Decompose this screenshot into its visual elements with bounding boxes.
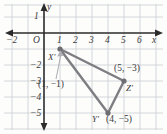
x-tick-label--2: −2 (6, 36, 17, 46)
x-tick-label-2: 2 (73, 36, 78, 46)
vertex-label-x-prime: X' (48, 53, 55, 62)
plot-svg (0, 0, 167, 134)
y-axis-name: y (47, 3, 51, 13)
vertex-label-z-prime: Z' (126, 84, 133, 93)
coord-label-z-prime: (5, −3) (114, 64, 140, 74)
x-tick-label-4: 4 (105, 36, 110, 46)
y-tick-label--2: −2 (30, 61, 41, 71)
y-tick-label-1: 1 (34, 12, 39, 22)
origin-label: O (33, 36, 40, 46)
x-tick-label-3: 3 (89, 36, 94, 46)
x-axis-name: x (152, 36, 156, 46)
coord-label-y-prime: (4, −5) (106, 115, 132, 125)
x-tick-label-6: 6 (137, 36, 142, 46)
vertex-x-prime (57, 46, 62, 51)
y-tick-label--5: −5 (30, 109, 41, 119)
x-tick-label-1: 1 (57, 36, 62, 46)
y-tick-label--4: −4 (30, 93, 41, 103)
x-tick-label-5: 5 (121, 36, 126, 46)
coordinate-plane-figure: −2 1 2 3 4 5 6 1 −2 −3 −4 −5 O x y X' Y'… (0, 0, 167, 134)
y-axis-arrow-down (41, 123, 48, 131)
coord-label-x-prime: (1, −1) (38, 80, 64, 90)
vertex-label-y-prime: Y' (92, 115, 99, 124)
